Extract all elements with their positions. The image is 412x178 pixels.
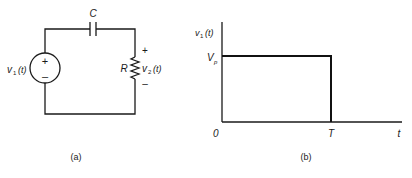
pulse-plot: v 1 (t) V p 0 T t (b) [195, 22, 402, 162]
vp-label-sub: p [213, 59, 218, 65]
y-axis-label: v 1 (t) [195, 28, 214, 39]
caption-b: (b) [301, 152, 312, 162]
wire-top-left [45, 29, 90, 53]
vp-level-label: V p [207, 52, 218, 65]
wire-bottom [45, 79, 135, 114]
end-time-label: T [328, 128, 335, 139]
output-plus: + [142, 45, 148, 56]
origin-label: 0 [213, 128, 219, 139]
source-label-arg: (t) [18, 65, 27, 75]
output-minus: – [142, 78, 148, 89]
wire-top-right [96, 29, 135, 57]
source-plus: + [42, 55, 48, 67]
figure-canvas: + – C R v 1 (t) + v 2 (t) – (a) v 1 (t) [0, 0, 412, 178]
caption-a: (a) [71, 152, 82, 162]
y-label-arg: (t) [205, 28, 214, 38]
output-label-arg: (t) [153, 64, 162, 74]
y-label-sub: 1 [200, 33, 204, 39]
output-voltage-label: v 2 (t) [142, 63, 162, 75]
rc-circuit: + – C R v 1 (t) + v 2 (t) – (a) [7, 8, 162, 162]
x-axis-label: t [398, 128, 402, 139]
resistor-icon [131, 57, 139, 79]
capacitor-label: C [89, 8, 97, 19]
output-label-sub: 2 [148, 69, 152, 75]
source-voltage-label: v 1 (t) [7, 64, 27, 76]
source-minus: – [42, 70, 49, 82]
source-label-sub: 1 [13, 70, 17, 76]
resistor-label: R [120, 63, 127, 74]
pulse-waveform [222, 56, 331, 122]
